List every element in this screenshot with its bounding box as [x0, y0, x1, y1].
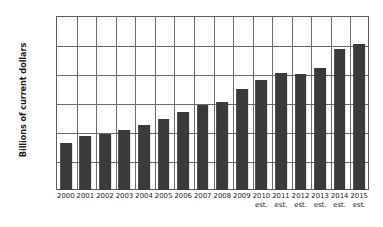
x-tick-year: 2015: [350, 192, 368, 200]
x-tick-label: 2007: [193, 192, 213, 201]
bar[interactable]: [197, 105, 209, 190]
bar-cell: [232, 16, 252, 190]
x-tick-year: 2002: [96, 192, 114, 200]
bar[interactable]: [158, 119, 170, 190]
bar-cell: [291, 16, 311, 190]
x-tick-label: 2014est.: [330, 192, 350, 210]
x-tick-year: 2006: [174, 192, 192, 200]
bar-cell: [252, 16, 272, 190]
x-tick-year: 2007: [194, 192, 212, 200]
bar-cell: [134, 16, 154, 190]
y-axis-title: Billions of current dollars: [18, 20, 28, 180]
x-tick-label: 2013est.: [310, 192, 330, 210]
x-tick-year: 2009: [233, 192, 251, 200]
x-tick-year: 2012: [292, 192, 310, 200]
bar-cell: [193, 16, 213, 190]
bar-cell: [330, 16, 350, 190]
bar-cell: [95, 16, 115, 190]
x-tick-label: 2000: [56, 192, 76, 201]
x-tick-year: 2014: [331, 192, 349, 200]
x-tick-label: 2012est.: [291, 192, 311, 210]
bar-cell: [349, 16, 369, 190]
bar-cell: [154, 16, 174, 190]
x-tick-label: 2004: [134, 192, 154, 201]
bar[interactable]: [60, 143, 72, 190]
x-tick-label: 2011est.: [271, 192, 291, 210]
x-tick-label: 2010est.: [252, 192, 272, 210]
x-tick-label: 2001: [76, 192, 96, 201]
bar[interactable]: [256, 80, 268, 190]
x-tick-year: 2008: [214, 192, 232, 200]
bar[interactable]: [334, 49, 346, 190]
x-tick-label: 2008: [213, 192, 233, 201]
x-tick-year: 2004: [135, 192, 153, 200]
bar[interactable]: [79, 136, 91, 190]
bar[interactable]: [295, 74, 307, 190]
x-tick-estimate-note: est.: [252, 201, 272, 210]
x-tick-estimate-note: est.: [310, 201, 330, 210]
x-tick-label: 2009: [232, 192, 252, 201]
x-tick-year: 2013: [311, 192, 329, 200]
bar-cell: [173, 16, 193, 190]
x-tick-estimate-note: est.: [271, 201, 291, 210]
x-tick-estimate-note: est.: [291, 201, 311, 210]
bar-cell: [213, 16, 233, 190]
bar-cell: [76, 16, 96, 190]
x-tick-year: 2000: [57, 192, 75, 200]
bar[interactable]: [177, 112, 189, 190]
bar-series: [56, 16, 369, 190]
x-tick-estimate-note: est.: [349, 201, 369, 210]
bar-cell: [56, 16, 76, 190]
x-tick-label: 2002: [95, 192, 115, 201]
x-tick-label: 2003: [115, 192, 135, 201]
bar[interactable]: [119, 130, 131, 190]
bar[interactable]: [275, 73, 287, 190]
bar-cell: [310, 16, 330, 190]
bar[interactable]: [353, 44, 365, 190]
bar[interactable]: [99, 134, 111, 190]
bar[interactable]: [138, 125, 150, 190]
x-tick-year: 2001: [77, 192, 95, 200]
bar-cell: [271, 16, 291, 190]
bar[interactable]: [236, 89, 248, 190]
x-tick-year: 2005: [155, 192, 173, 200]
x-tick-label: 2006: [173, 192, 193, 201]
bar[interactable]: [216, 102, 228, 190]
x-tick-estimate-note: est.: [330, 201, 350, 210]
x-tick-year: 2003: [116, 192, 134, 200]
x-axis-ticks: 2000200120022003200420052006200720082009…: [56, 192, 369, 225]
x-tick-label: 2005: [154, 192, 174, 201]
x-tick-year: 2010: [253, 192, 271, 200]
bar-chart: Billions of current dollars 1,2001,00080…: [0, 0, 383, 227]
bar-cell: [115, 16, 135, 190]
x-tick-label: 2015est.: [349, 192, 369, 210]
bar[interactable]: [314, 68, 326, 190]
x-tick-year: 2011: [272, 192, 290, 200]
